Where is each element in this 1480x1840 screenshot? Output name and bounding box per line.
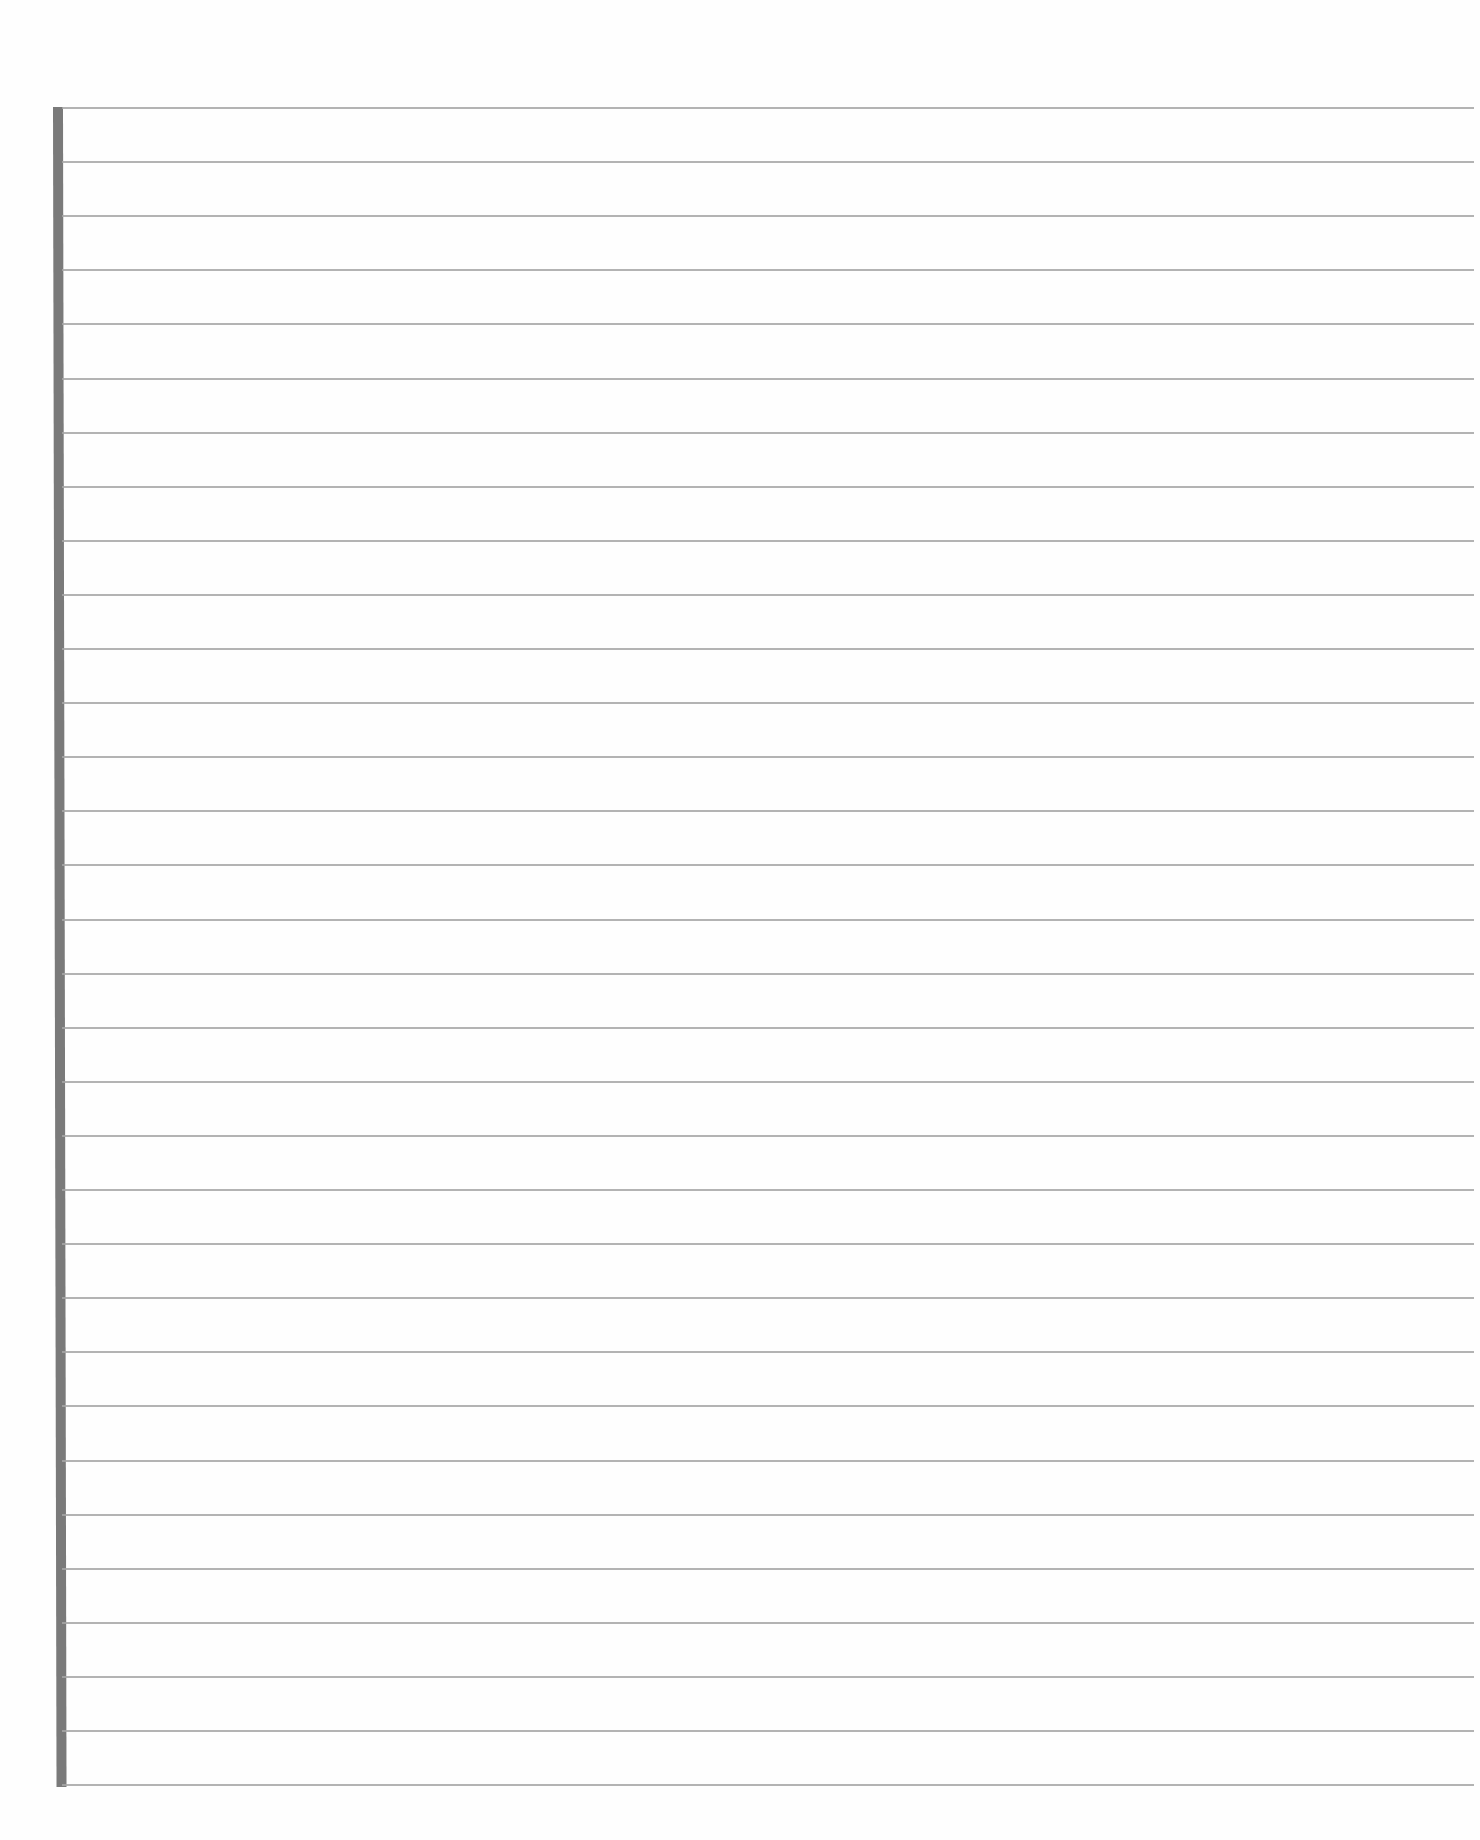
ruled-line bbox=[62, 864, 1474, 866]
ruled-line bbox=[62, 648, 1474, 650]
ruled-line bbox=[62, 1514, 1474, 1516]
ruled-line bbox=[62, 1460, 1474, 1462]
ruled-line bbox=[62, 1189, 1474, 1191]
ruled-line bbox=[62, 1676, 1474, 1678]
ruled-line bbox=[62, 810, 1474, 812]
ruled-line bbox=[62, 1135, 1474, 1137]
ruled-line bbox=[62, 161, 1474, 163]
ruled-line bbox=[62, 919, 1474, 921]
lined-paper-page bbox=[0, 0, 1480, 1840]
ruled-line bbox=[62, 1784, 1474, 1786]
ruled-line bbox=[62, 1405, 1474, 1407]
ruled-line bbox=[62, 702, 1474, 704]
ruled-line bbox=[62, 540, 1474, 542]
ruled-line bbox=[62, 1568, 1474, 1570]
ruled-line bbox=[62, 594, 1474, 596]
ruled-line bbox=[62, 323, 1474, 325]
ruled-line bbox=[62, 432, 1474, 434]
ruled-line bbox=[62, 1027, 1474, 1029]
ruled-line bbox=[62, 1297, 1474, 1299]
ruled-line bbox=[62, 378, 1474, 380]
ruled-line bbox=[62, 756, 1474, 758]
ruled-line bbox=[62, 1622, 1474, 1624]
ruled-line bbox=[62, 1243, 1474, 1245]
ruled-line bbox=[62, 486, 1474, 488]
ruled-line bbox=[62, 269, 1474, 271]
ruled-line bbox=[62, 1730, 1474, 1732]
ruled-line bbox=[62, 1351, 1474, 1353]
ruled-line bbox=[62, 973, 1474, 975]
ruled-line bbox=[62, 107, 1474, 109]
ruled-line bbox=[62, 215, 1474, 217]
ruled-line bbox=[62, 1081, 1474, 1083]
left-margin-bar bbox=[53, 107, 67, 1787]
